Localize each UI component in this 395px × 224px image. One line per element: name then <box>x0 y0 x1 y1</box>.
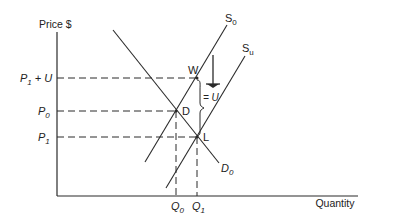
point-l-label: L <box>203 131 209 143</box>
x-axis-label: Quantity <box>315 197 355 209</box>
label-su: Su <box>242 42 254 57</box>
shift-arrow-icon <box>206 55 220 88</box>
supply-demand-diagram: Price $ Quantity P1 + U P0 P1 Q0 Q1 D0 S… <box>0 0 395 224</box>
label-q1: Q1 <box>192 200 205 215</box>
label-s0: S0 <box>225 12 237 27</box>
label-p1: P1 <box>38 131 50 146</box>
label-p1-plus-u: P1 + U <box>20 72 52 87</box>
point-w-dot <box>196 77 199 80</box>
point-w-label: W <box>188 64 199 76</box>
label-p0: P0 <box>38 105 50 120</box>
label-d0: D0 <box>221 162 234 177</box>
point-d-dot <box>174 109 177 112</box>
point-l-dot <box>195 135 198 138</box>
brace-label: = U <box>203 92 220 103</box>
point-d-label: D <box>182 105 190 117</box>
y-axis-label: Price $ <box>39 18 72 30</box>
label-q0: Q0 <box>171 200 185 215</box>
brace-icon <box>197 80 204 136</box>
